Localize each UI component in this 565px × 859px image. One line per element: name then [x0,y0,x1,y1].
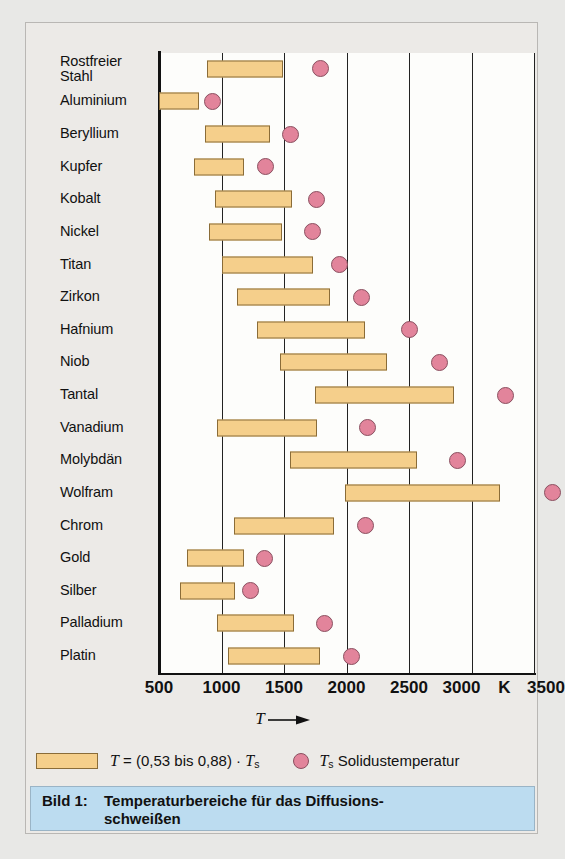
range-bar [205,126,270,143]
figure-number: Bild 1: [42,792,104,827]
row-label-chrom: Chrom [60,518,155,534]
legend: T = (0,53 bis 0,88) · Ts Ts Solidustempe… [26,739,539,783]
solidus-point [343,648,360,665]
row-label-gold: Gold [60,550,155,566]
range-bar [345,484,500,501]
range-bar [209,223,282,240]
caption-line-1: Temperaturbereiche für das Diffusions- [104,792,384,809]
figure-panel: RostfreierStahlAluminiumBerylliumKupferK… [25,22,538,834]
range-bar [222,256,313,273]
solidus-point [282,126,299,143]
table-row: RostfreierStahl [26,53,539,85]
table-row: Vanadium [26,412,539,444]
table-row: Titan [26,249,539,281]
table-row: Gold [26,542,539,574]
row-label-vanadium: Vanadium [60,420,155,436]
range-bar [315,387,454,404]
range-bar [180,582,235,599]
row-label-aluminium: Aluminium [60,94,155,110]
table-row: Molybdän [26,445,539,477]
table-row: Platin [26,640,539,672]
x-tick-2000: 2000 [328,678,366,698]
row-label-platin: Platin [60,648,155,664]
range-bar [257,321,366,338]
row-label-hafnium: Hafnium [60,322,155,338]
x-tick-3500: 3500 [527,678,565,698]
x-tick-1000: 1000 [203,678,241,698]
row-label-tantal: Tantal [60,387,155,403]
range-bar [217,419,317,436]
legend-bar-label: T = (0,53 bis 0,88) · Ts [110,752,259,770]
range-bar [237,289,331,306]
x-axis-caption: T [26,709,539,729]
solidus-point [242,582,259,599]
arrow-right-icon [268,714,310,726]
solidus-point [431,354,448,371]
range-bar [217,615,295,632]
row-label-titan: Titan [60,257,155,273]
row-label-rostfreier-stahl: RostfreierStahl [60,53,155,84]
range-bar [187,550,245,567]
solidus-point [359,419,376,436]
table-row: Kobalt [26,184,539,216]
legend-dot-label: Ts Solidustemperatur [319,752,459,770]
caption-line-2: schweißen [104,810,181,827]
table-row: Wolfram [26,477,539,509]
solidus-point [449,452,466,469]
row-label-wolfram: Wolfram [60,485,155,501]
solidus-point [357,517,374,534]
table-row: Tantal [26,379,539,411]
table-row: Hafnium [26,314,539,346]
figure-caption-text: Temperaturbereiche für das Diffusions- s… [104,792,384,827]
table-row: Aluminium [26,86,539,118]
range-bar [207,60,283,77]
range-bar [290,452,416,469]
solidus-point [304,223,321,240]
row-label-nickel: Nickel [60,224,155,240]
table-row: Silber [26,575,539,607]
table-row: Chrom [26,510,539,542]
legend-bar-swatch [36,753,98,769]
solidus-point [308,191,325,208]
row-label-kobalt: Kobalt [60,192,155,208]
range-bar [280,354,386,371]
range-bar [234,517,334,534]
solidus-point [544,484,561,501]
solidus-point [257,158,274,175]
row-label-molybdän: Molybdän [60,453,155,469]
x-axis-unit: K [498,678,510,698]
x-axis-tick-labels: 500100015002000250030003500K [26,678,539,704]
chart-rows: RostfreierStahlAluminiumBerylliumKupferK… [26,23,539,683]
table-row: Zirkon [26,281,539,313]
range-bar [194,158,244,175]
x-tick-2500: 2500 [390,678,428,698]
row-label-silber: Silber [60,583,155,599]
row-label-niob: Niob [60,355,155,371]
legend-dot-swatch [293,753,309,769]
solidus-point [401,321,418,338]
row-label-palladium: Palladium [60,616,155,632]
row-label-beryllium: Beryllium [60,126,155,142]
range-bar [228,648,321,665]
table-row: Nickel [26,216,539,248]
solidus-point [353,289,370,306]
solidus-point [256,550,273,567]
solidus-point [331,256,348,273]
table-row: Palladium [26,608,539,640]
range-bar [159,93,199,110]
solidus-point [204,93,221,110]
x-tick-500: 500 [145,678,173,698]
row-label-zirkon: Zirkon [60,289,155,305]
range-bar [215,191,291,208]
x-tick-3000: 3000 [443,678,481,698]
solidus-point [316,615,333,632]
table-row: Niob [26,347,539,379]
figure-caption-bar: Bild 1: Temperaturbereiche für das Diffu… [30,786,535,831]
solidus-point [312,60,329,77]
x-tick-1500: 1500 [265,678,303,698]
row-label-kupfer: Kupfer [60,159,155,175]
table-row: Beryllium [26,118,539,150]
axis-symbol-T: T [255,709,264,728]
solidus-point [497,387,514,404]
table-row: Kupfer [26,151,539,183]
